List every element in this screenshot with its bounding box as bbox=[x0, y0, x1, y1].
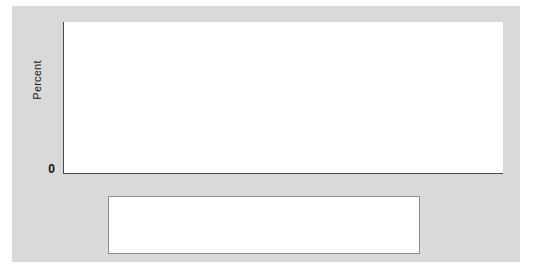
chart-legend bbox=[108, 196, 420, 254]
bottom-note-strip bbox=[0, 266, 533, 280]
chart-figure: Percent 0 bbox=[0, 0, 533, 280]
